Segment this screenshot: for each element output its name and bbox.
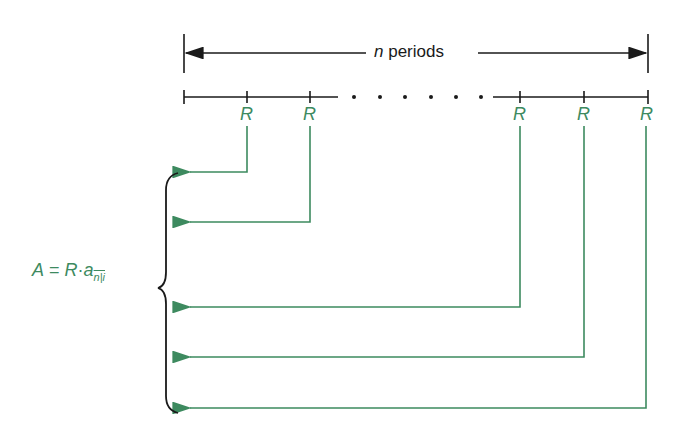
curly-brace xyxy=(158,173,178,413)
arrow-2 xyxy=(190,126,310,222)
arrow-4 xyxy=(190,126,584,357)
payment-label-5: R xyxy=(640,104,653,125)
payment-label-3: R xyxy=(513,104,526,125)
arrow-1 xyxy=(190,126,247,172)
arrow-3 xyxy=(190,126,520,307)
ellipsis-dots xyxy=(352,95,483,99)
payment-label-1: R xyxy=(240,104,253,125)
payment-label-2: R xyxy=(303,104,316,125)
timeline xyxy=(184,90,648,104)
payment-label-4: R xyxy=(577,104,590,125)
arrow-5 xyxy=(190,126,646,408)
present-value-formula: A = R·an|i xyxy=(32,260,105,281)
discount-arrows xyxy=(190,126,646,408)
annuity-diagram xyxy=(0,0,685,428)
periods-label: n periods xyxy=(370,42,448,62)
